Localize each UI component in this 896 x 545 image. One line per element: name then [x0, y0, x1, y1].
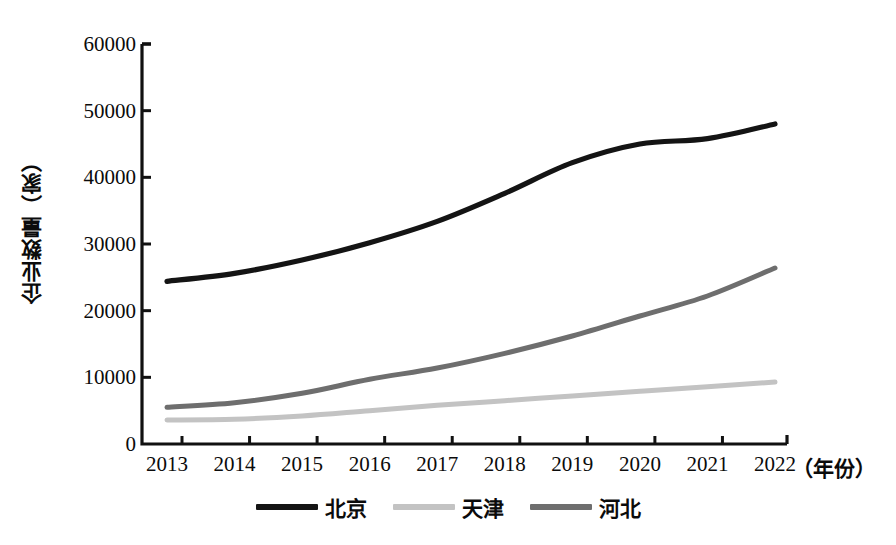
legend-item[interactable]: 河北 — [530, 492, 641, 522]
x-tick-label: 2015 — [281, 452, 323, 477]
axis-lines — [142, 44, 787, 444]
legend-label: 北京 — [325, 492, 367, 522]
x-tick-label: 2021 — [686, 452, 728, 477]
chart-figure: 企业数量（家） 0100002000030000400005000060000 … — [0, 0, 896, 545]
legend-label: 河北 — [599, 492, 641, 522]
legend-label: 天津 — [462, 492, 504, 522]
x-tick-label: 2019 — [551, 452, 593, 477]
legend-swatch-icon — [256, 504, 318, 510]
legend-swatch-icon — [530, 504, 592, 510]
x-tick-label: 2017 — [416, 452, 458, 477]
x-tick-label: 2020 — [619, 452, 661, 477]
legend-swatch-icon — [393, 504, 455, 510]
chart-legend: 北京天津河北 — [0, 492, 896, 522]
series-line-0 — [167, 124, 775, 281]
legend-item[interactable]: 北京 — [256, 492, 367, 522]
x-tick-label: 2013 — [146, 452, 188, 477]
x-tick-label: 2016 — [349, 452, 391, 477]
x-axis-title: （年份） — [792, 452, 876, 482]
x-tick-label: 2018 — [484, 452, 526, 477]
x-tick-label: 2022 — [754, 452, 796, 477]
x-tick-label: 2014 — [214, 452, 256, 477]
legend-item[interactable]: 天津 — [393, 492, 504, 522]
